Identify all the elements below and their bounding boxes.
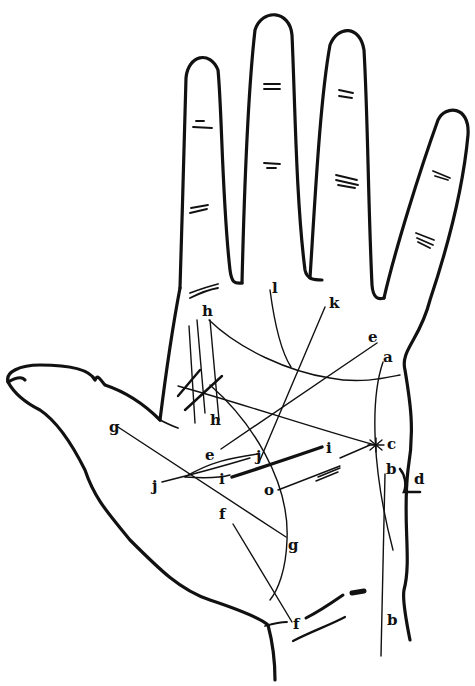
- label-e-top: e: [368, 328, 378, 346]
- label-c: c: [387, 435, 396, 453]
- palm-diagram: l k h e a h g c i e j b d i j o f g f b: [0, 0, 475, 686]
- label-e-mid: e: [205, 446, 215, 464]
- label-f-mid: f: [219, 505, 227, 523]
- label-k: k: [329, 294, 340, 312]
- label-a: a: [383, 348, 393, 366]
- label-g-right: g: [288, 536, 299, 554]
- label-d: d: [414, 470, 425, 488]
- label-b-bottom: b: [387, 611, 398, 629]
- label-o: o: [264, 481, 274, 499]
- label-f-bottom: f: [293, 615, 301, 633]
- label-h-top: h: [202, 302, 213, 320]
- label-j-mid: j: [254, 447, 261, 465]
- label-i-right: i: [326, 439, 332, 457]
- label-i-left: i: [219, 470, 225, 488]
- label-j-left: j: [150, 477, 157, 495]
- label-h-bottom: h: [210, 411, 221, 429]
- label-l: l: [272, 279, 278, 297]
- hand-outline: [8, 15, 468, 680]
- label-g-left: g: [109, 418, 120, 436]
- label-b-top: b: [386, 460, 397, 478]
